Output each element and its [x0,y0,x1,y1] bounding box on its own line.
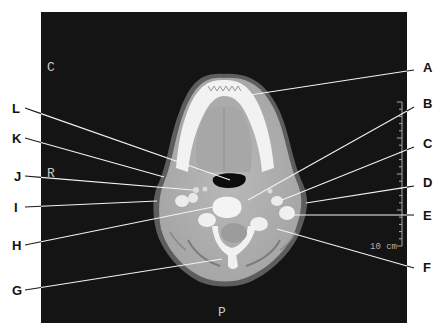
callout-letter: C [423,136,433,151]
leader-line [407,186,414,187]
vessel-i [175,195,189,207]
vessel-j [193,187,199,193]
callout-letter: L [12,101,20,116]
leader-line [407,70,414,71]
leader-line [25,206,41,207]
leader-line [25,108,41,114]
callout-letter: D [423,175,432,190]
leader-line [25,242,41,245]
leader-line [25,287,41,290]
vessel-e [279,206,295,220]
leader-line [25,138,41,142]
callout-letter: H [12,238,21,253]
orientation-marker-posterior: P [218,305,226,320]
callout-letter: A [423,60,433,75]
leader-line [25,176,41,177]
vessel-c [271,196,283,206]
leader-line [407,147,414,150]
leader-line [407,266,414,268]
callout-letter: E [423,208,432,223]
leader-line [407,107,414,111]
callout-letter: K [12,131,22,146]
callout-letter: F [423,260,431,275]
callout-letter: I [14,200,18,215]
vertebral-body [213,197,242,218]
callout-letter: J [14,169,21,184]
spinal-canal [221,223,247,243]
orientation-marker-anterior: C [47,60,55,75]
scale-bar-label: 10 cm [370,242,397,252]
callout-letter: G [12,283,22,298]
callout-letter: B [423,96,432,111]
ct-axial-neck-figure: C R P 10 cm ABCDEFGHIJKL [0,0,443,331]
